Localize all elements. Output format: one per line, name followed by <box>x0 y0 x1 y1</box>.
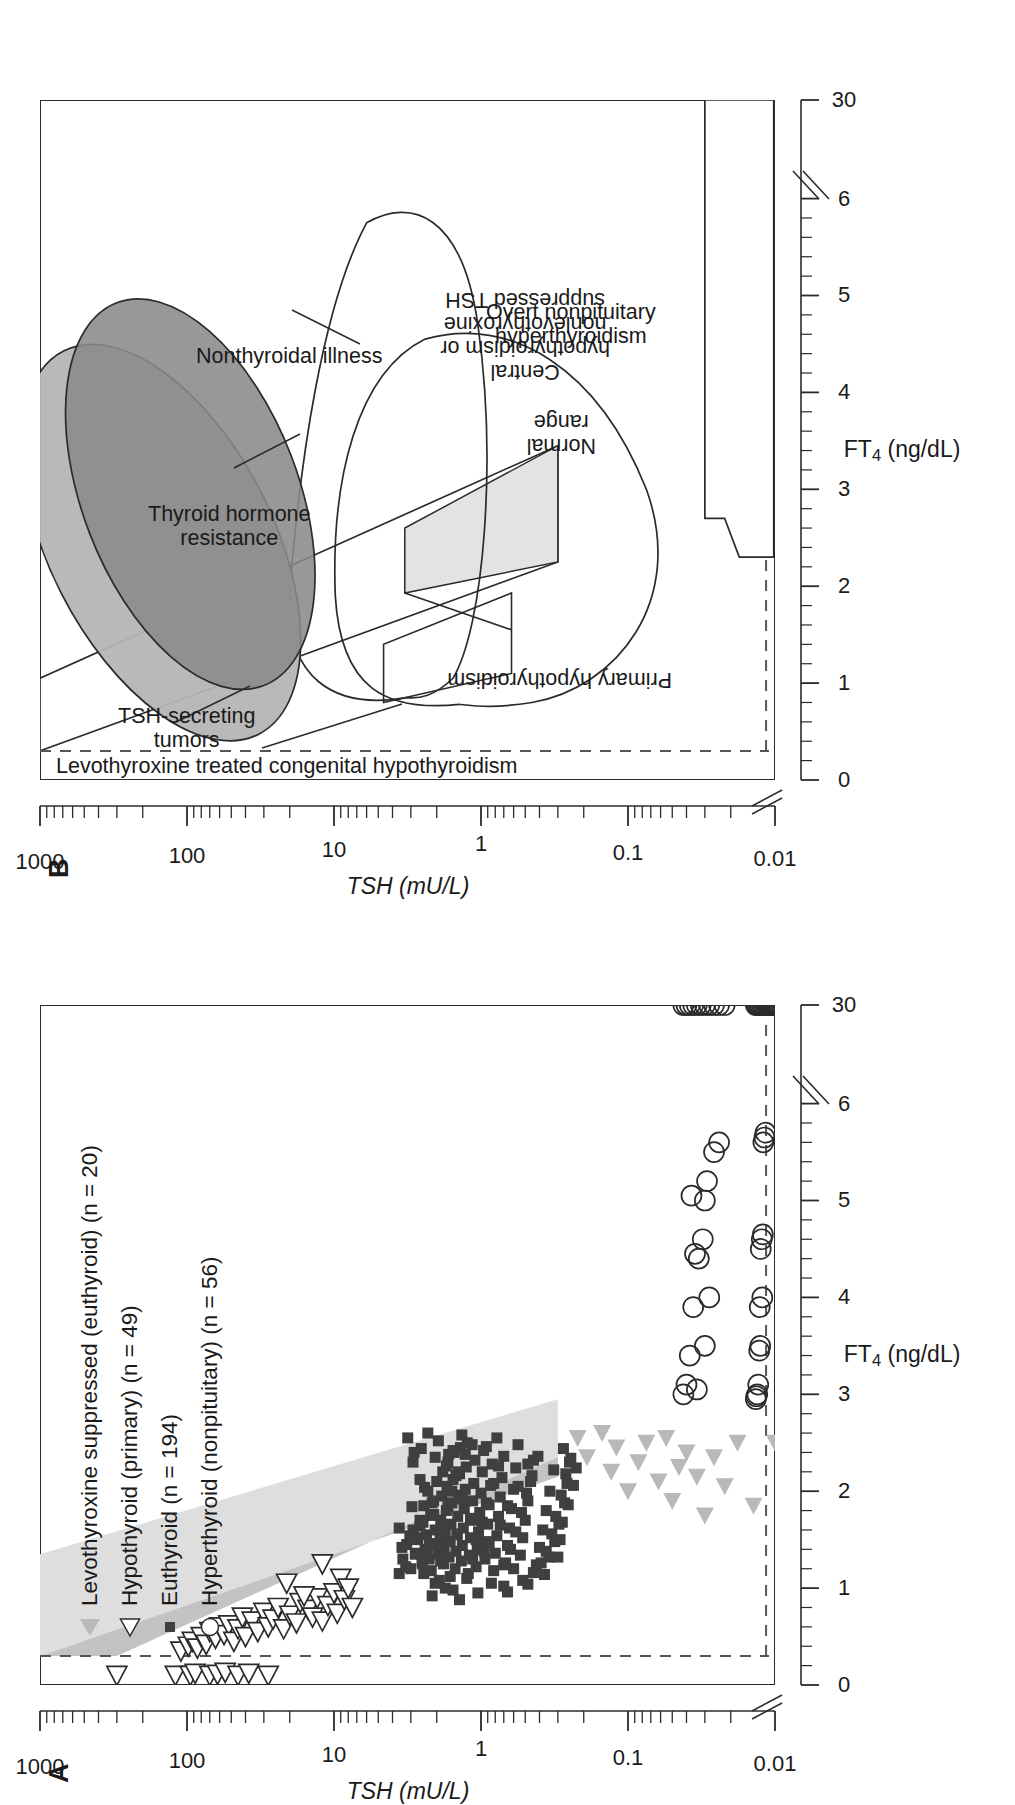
y-tick-label-0.1: 0.1 <box>613 1745 644 1771</box>
y-tick-label-0.01: 0.01 <box>754 846 797 872</box>
x-tick-label-6: 6 <box>838 186 850 212</box>
annotation-thyroid-hormone-resistance: Thyroid hormone resistance <box>148 502 311 550</box>
x-tick-label-4: 4 <box>838 379 850 405</box>
annotation-tsh-secreting-tumors: TSH-secreting tumors <box>118 704 255 752</box>
annotation-central-hypothyroidism: Central hypothyroidism or nonlevothyroxi… <box>440 288 610 384</box>
x-tick-label-2: 2 <box>838 1478 850 1504</box>
x-tick-label-1: 1 <box>838 670 850 696</box>
x-tick-label-30: 30 <box>832 992 856 1018</box>
open-triangle-icon <box>117 1614 143 1640</box>
panel-a-y-axis-title: TSH (mU/L) <box>346 1778 469 1805</box>
y-tick-label-100: 100 <box>169 843 206 869</box>
x-tick-label-2: 2 <box>838 573 850 599</box>
panel-b-x-axis-title: FT4 (ng/dL) <box>844 435 961 465</box>
x-tick-label-3: 3 <box>838 476 850 502</box>
legend-label-hyperthyroid: Hyperthyroid (nonpituitary) (n = 56) <box>197 1256 223 1606</box>
x-tick-label-5: 5 <box>838 283 850 309</box>
x-tick-label-1: 1 <box>838 1575 850 1601</box>
legend-label-euthyroid: Euthyroid (n = 194) <box>157 1414 183 1606</box>
x-tick-label-4: 4 <box>838 1284 850 1310</box>
y-tick-label-100: 100 <box>169 1748 206 1774</box>
y-tick-label-10: 10 <box>322 1742 346 1768</box>
x-tick-label-6: 6 <box>838 1091 850 1117</box>
open-circle-icon <box>197 1614 223 1640</box>
y-tick-label-0.1: 0.1 <box>613 840 644 866</box>
x-tick-label-30: 30 <box>832 87 856 113</box>
y-tick-label-1000: 1000 <box>16 1754 65 1780</box>
panel-a: A Levothyroxine suppressed (euthyroid) (… <box>0 925 1015 1805</box>
series-filled-triangle-gray <box>569 1425 784 1524</box>
legend-label-hypothyroid: Hypothyroid (primary) (n = 49) <box>117 1305 143 1606</box>
y-tick-label-10: 10 <box>322 837 346 863</box>
panel-a-x-axis-title: FT4 (ng/dL) <box>844 1340 961 1370</box>
annotation-nonthyroidal-illness: Nonthyroidal illness <box>196 344 382 368</box>
figure-stage: A Levothyroxine suppressed (euthyroid) (… <box>0 0 1015 1805</box>
x-tick-label-0: 0 <box>838 767 850 793</box>
y-tick-label-0.01: 0.01 <box>754 1751 797 1777</box>
filled-triangle-gray-icon <box>77 1614 103 1640</box>
annotation-levothyroxine-congenital: Levothyroxine treated congenital hypothy… <box>56 754 517 778</box>
y-tick-label-1000: 1000 <box>16 849 65 875</box>
y-tick-label-1: 1 <box>475 1736 487 1762</box>
x-tick-label-3: 3 <box>838 1381 850 1407</box>
series-open-circle <box>673 995 786 1409</box>
filled-square-icon <box>157 1614 183 1640</box>
panel-b: B Levothyroxine treated congenital hypot… <box>0 20 1015 900</box>
x-tick-label-5: 5 <box>838 1188 850 1214</box>
y-tick-label-1: 1 <box>475 831 487 857</box>
legend-label-levothyroxine-suppressed: Levothyroxine suppressed (euthyroid) (n … <box>77 1145 103 1606</box>
annotation-primary-hypothyroidism: Primary hypothyroidism <box>447 668 672 692</box>
x-tick-label-0: 0 <box>838 1672 850 1698</box>
annotation-normal-range: Normal range <box>527 410 596 458</box>
panel-b-y-axis-title: TSH (mU/L) <box>346 873 469 900</box>
